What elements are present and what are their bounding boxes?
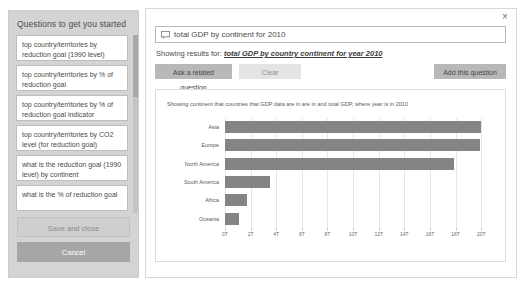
category-label: North America: [169, 155, 223, 173]
bar[interactable]: [225, 176, 270, 188]
showing-results-line: Showing results for: total GDP by countr…: [156, 49, 382, 58]
main-panel: × total GDP by continent for 2010 Showin…: [145, 8, 517, 278]
bar[interactable]: [225, 213, 239, 225]
tick-label: 8T: [325, 231, 331, 237]
category-label: Europe: [169, 136, 223, 154]
tick-label: 16T: [426, 231, 435, 237]
suggested-questions-sidebar: Questions to get you started top country…: [8, 10, 139, 278]
interpreted-question-link[interactable]: total GDP by country continent for year …: [224, 49, 383, 58]
bar-row: [225, 155, 494, 173]
tick-label: 6T: [299, 231, 305, 237]
category-label: Oceania: [169, 210, 223, 228]
category-label: Asia: [169, 118, 223, 136]
bar[interactable]: [225, 139, 480, 151]
ask-related-question-button[interactable]: Ask a related question: [155, 64, 232, 79]
tick-label: 2T: [248, 231, 254, 237]
category-axis-labels: AsiaEuropeNorth AmericaSouth AmericaAfri…: [169, 118, 223, 228]
bar[interactable]: [225, 121, 481, 133]
list-item[interactable]: top country/territories by reduction goa…: [16, 35, 128, 61]
chart-subtitle: Showing continent that countries that GD…: [167, 101, 408, 107]
sidebar-title: Questions to get you started: [9, 11, 138, 35]
tick-label: 10T: [349, 231, 358, 237]
bar-chart: AsiaEuropeNorth AmericaSouth AmericaAfri…: [169, 118, 494, 246]
search-input[interactable]: total GDP by continent for 2010: [155, 26, 506, 43]
tick-label: 14T: [400, 231, 409, 237]
list-item[interactable]: top country/territories by % of reductio…: [16, 65, 128, 91]
bar-row: [225, 118, 494, 136]
category-label: Africa: [169, 191, 223, 209]
suggested-questions-list: top country/territories by reduction goa…: [16, 35, 128, 211]
tick-label: 4T: [273, 231, 279, 237]
list-item[interactable]: what is the % of reduction goal: [16, 185, 128, 211]
add-this-question-button[interactable]: Add this question: [434, 64, 506, 79]
tick-label: 20T: [477, 231, 486, 237]
list-item[interactable]: top country/territories by % of reductio…: [16, 95, 128, 121]
speech-bubble-icon: [161, 31, 170, 39]
plot-area: [225, 118, 494, 228]
tick-label: 0T: [222, 231, 228, 237]
list-item[interactable]: what is the reduction goal (1990 level) …: [16, 155, 128, 181]
sidebar-scrollbar[interactable]: [133, 35, 138, 213]
cancel-button[interactable]: Cancel: [17, 242, 130, 262]
close-icon[interactable]: ×: [498, 10, 512, 24]
bar-row: [225, 173, 494, 191]
category-label: South America: [169, 173, 223, 191]
sidebar-scrollbar-thumb[interactable]: [133, 35, 138, 97]
tick-label: 18T: [451, 231, 460, 237]
bar-series: [225, 118, 494, 228]
save-and-close-button[interactable]: Save and close: [17, 217, 130, 237]
bar-row: [225, 136, 494, 154]
list-item[interactable]: top country/territories by CO2 level (fo…: [16, 125, 128, 151]
value-axis: 0T2T4T6T8T10T12T14T16T18T20T: [225, 228, 494, 242]
bar[interactable]: [225, 158, 454, 170]
clear-button[interactable]: Clear: [239, 64, 301, 79]
showing-results-prefix: Showing results for:: [156, 49, 222, 58]
tick-label: 12T: [374, 231, 383, 237]
bar-row: [225, 191, 494, 209]
action-button-row: Ask a related question Clear Add this qu…: [155, 64, 506, 80]
question-builder-dialog: Questions to get you started top country…: [0, 0, 525, 286]
bar-row: [225, 210, 494, 228]
search-input-value: total GDP by continent for 2010: [174, 30, 285, 39]
chart-panel: Showing continent that countries that GD…: [155, 89, 506, 262]
bar[interactable]: [225, 194, 247, 206]
